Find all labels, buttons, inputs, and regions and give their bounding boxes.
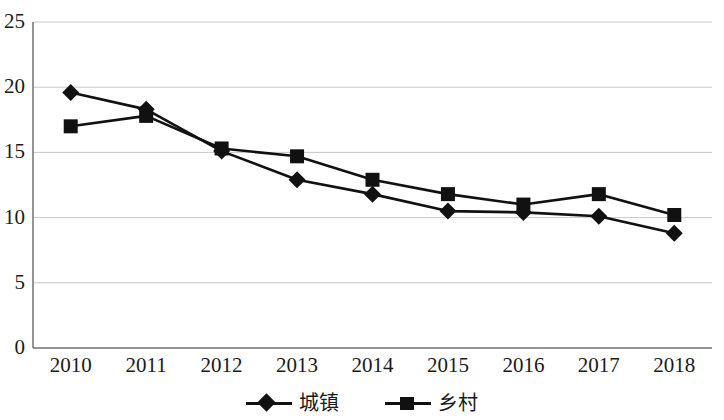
data-point-series-1-4 bbox=[366, 173, 380, 187]
data-point-series-0-0 bbox=[62, 84, 79, 101]
x-tick-label-2012: 2012 bbox=[182, 355, 262, 376]
diamond-marker-icon bbox=[246, 394, 292, 412]
data-point-series-1-6 bbox=[516, 198, 530, 212]
data-point-series-1-3 bbox=[290, 149, 304, 163]
y-tick-label-15: 15 bbox=[0, 141, 25, 162]
x-tick-label-2010: 2010 bbox=[31, 355, 111, 376]
line-chart: 0510152025 20102011201220132014201520162… bbox=[0, 0, 724, 420]
legend-label-series-1: 乡村 bbox=[438, 393, 478, 413]
x-tick-label-2018: 2018 bbox=[634, 355, 714, 376]
y-tick-label-0: 0 bbox=[0, 337, 25, 358]
legend-item-series-1: 乡村 bbox=[385, 393, 478, 413]
data-point-series-0-8 bbox=[666, 225, 683, 242]
y-tick-label-25: 25 bbox=[0, 11, 25, 32]
data-point-series-1-8 bbox=[667, 208, 681, 222]
square-marker-icon bbox=[385, 394, 431, 412]
y-tick-label-5: 5 bbox=[0, 272, 25, 293]
data-point-series-0-7 bbox=[590, 208, 607, 225]
data-point-series-1-0 bbox=[64, 119, 78, 133]
data-point-series-1-2 bbox=[215, 141, 229, 155]
x-tick-label-2017: 2017 bbox=[559, 355, 639, 376]
y-tick-label-20: 20 bbox=[0, 76, 25, 97]
data-point-series-0-3 bbox=[289, 171, 306, 188]
data-point-series-0-5 bbox=[439, 203, 456, 220]
x-tick-label-2013: 2013 bbox=[257, 355, 337, 376]
data-point-series-1-5 bbox=[441, 187, 455, 201]
x-tick-label-2014: 2014 bbox=[333, 355, 413, 376]
x-tick-label-2015: 2015 bbox=[408, 355, 488, 376]
chart-legend: 城镇 乡村 bbox=[0, 386, 724, 420]
series-line-0 bbox=[71, 92, 675, 233]
data-point-series-1-1 bbox=[139, 109, 153, 123]
x-tick-label-2011: 2011 bbox=[106, 355, 186, 376]
legend-item-series-0: 城镇 bbox=[246, 393, 339, 413]
y-tick-label-10: 10 bbox=[0, 207, 25, 228]
data-point-series-1-7 bbox=[592, 187, 606, 201]
x-tick-label-2016: 2016 bbox=[483, 355, 563, 376]
data-point-series-0-4 bbox=[364, 186, 381, 203]
legend-label-series-0: 城镇 bbox=[299, 393, 339, 413]
